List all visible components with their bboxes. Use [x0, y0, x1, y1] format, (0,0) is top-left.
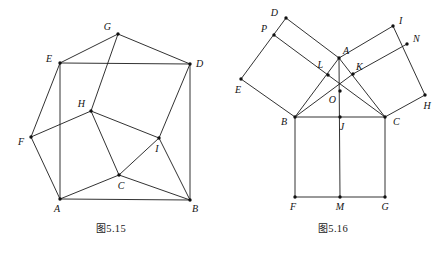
figure-5-16: ABCDEFGHIJKLMNOP 图5.16: [222, 0, 444, 253]
vertex-label-H: H: [77, 98, 86, 109]
vertex-label-A: A: [53, 203, 61, 214]
vertex-point-N: [405, 42, 408, 45]
vertex-label-I: I: [154, 143, 159, 154]
vertex-point-G: [383, 195, 386, 198]
edge-CH: [385, 95, 425, 117]
vertex-label-B: B: [192, 203, 198, 214]
vertex-point-E: [58, 61, 61, 64]
vertex-label-A: A: [342, 45, 350, 56]
figure-5-16-canvas: ABCDEFGHIJKLMNOP: [222, 0, 444, 215]
vertex-point-D: [284, 16, 287, 19]
figure-5-16-caption-number: 5.16: [328, 223, 348, 234]
vertex-label-F: F: [289, 201, 297, 212]
figure-5-15-caption-number: 5.15: [106, 223, 126, 234]
vertex-label-C: C: [118, 180, 125, 191]
vertex-label-I: I: [398, 15, 403, 26]
edge-AD: [286, 18, 339, 58]
vertex-label-C: C: [393, 116, 400, 127]
vertex-label-E: E: [45, 53, 52, 64]
vertex-point-I: [157, 136, 160, 139]
edge-BE: [241, 79, 295, 117]
figure-5-16-caption: 图5.16: [222, 220, 444, 235]
vertex-label-P: P: [260, 23, 267, 34]
vertex-label-F: F: [17, 136, 25, 147]
vertex-point-F: [29, 135, 32, 138]
vertex-label-E: E: [234, 84, 241, 95]
figure-5-15-caption: 图5.15: [0, 220, 222, 235]
vertex-label-O: O: [329, 94, 336, 105]
vertex-point-D: [188, 62, 191, 65]
figure-5-15-canvas: ABCDEFGHI: [0, 0, 222, 215]
vertex-point-G: [116, 32, 119, 35]
vertex-label-N: N: [412, 33, 421, 44]
vertex-point-J: [338, 115, 341, 118]
edge-CL: [328, 75, 385, 117]
edge-CI: [119, 138, 159, 175]
vertex-point-K: [351, 72, 354, 75]
vertex-label-B: B: [281, 116, 287, 127]
edge-DE: [60, 63, 190, 64]
edge-AF: [31, 137, 60, 199]
vertex-label-G: G: [104, 21, 111, 32]
edge-AC: [60, 175, 119, 199]
edge-DG: [118, 34, 190, 64]
figure-5-15-caption-cn: 图: [96, 223, 106, 234]
vertex-label-D: D: [195, 58, 204, 69]
vertex-label-D: D: [270, 7, 279, 18]
vertex-point-C: [383, 115, 386, 118]
vertex-point-P: [272, 33, 275, 36]
vertex-point-H: [89, 109, 92, 112]
edge-BK: [295, 74, 353, 117]
vertex-point-C: [117, 173, 120, 176]
edge-DI: [159, 64, 190, 138]
vertex-point-L: [326, 73, 329, 76]
vertex-label-M: M: [335, 201, 345, 212]
vertex-label-J: J: [340, 121, 345, 132]
vertex-label-L: L: [316, 59, 323, 70]
vertex-point-F: [293, 195, 296, 198]
vertex-point-M: [338, 195, 341, 198]
figure-5-16-caption-cn: 图: [318, 223, 328, 234]
vertex-point-B: [293, 115, 296, 118]
edge-IH: [393, 26, 425, 95]
vertex-point-O: [338, 89, 341, 92]
vertex-point-A: [337, 56, 340, 59]
vertex-point-H: [423, 93, 426, 96]
vertex-label-H: H: [422, 100, 431, 111]
vertex-point-B: [188, 198, 191, 201]
figure-5-15: ABCDEFGHI 图5.15: [0, 0, 222, 253]
edge-AB: [60, 199, 190, 200]
vertex-point-A: [58, 197, 61, 200]
figure-page: ABCDEFGHI 图5.15 ABCDEFGHIJKLMNOP 图5.16: [0, 0, 444, 253]
vertex-label-G: G: [381, 201, 388, 212]
vertex-label-K: K: [355, 61, 364, 72]
vertex-point-I: [391, 24, 394, 27]
vertex-point-E: [239, 77, 242, 80]
